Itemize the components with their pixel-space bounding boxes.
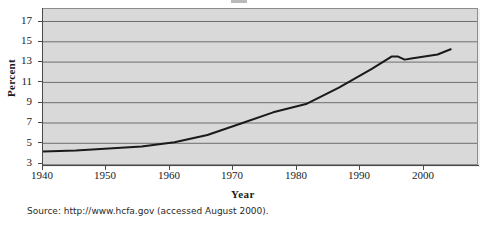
plot-area (42, 8, 478, 165)
y-tick-mark-13 (38, 61, 43, 62)
y-tick-mark-5 (38, 142, 43, 143)
x-tick-label-1990: 1990 (334, 170, 384, 181)
x-axis-line (42, 165, 479, 166)
x-axis-title: Year (0, 188, 486, 200)
y-tick-mark-15 (38, 41, 43, 42)
y-tick-label-3: 3 (10, 157, 32, 168)
y-tick-mark-9 (38, 102, 43, 103)
x-tick-label-2000: 2000 (398, 170, 448, 181)
y-axis-title: Percent (5, 48, 17, 108)
grid-and-series-layer (43, 9, 477, 164)
y-tick-label-17: 17 (10, 15, 32, 26)
x-tick-label-1950: 1950 (80, 170, 130, 181)
y-tick-label-15: 15 (10, 35, 32, 46)
y-tick-label-5: 5 (10, 137, 32, 148)
series-line-health-spending (43, 49, 451, 151)
clipped-title-remnant (231, 0, 247, 3)
gridlines (43, 22, 477, 144)
y-tick-mark-3 (38, 163, 43, 164)
y-tick-mark-7 (38, 122, 43, 123)
x-tick-label-1970: 1970 (207, 170, 257, 181)
y-tick-mark-11 (38, 81, 43, 82)
y-tick-mark-17 (38, 21, 43, 22)
x-tick-label-1960: 1960 (144, 170, 194, 181)
x-tick-label-1940: 1940 (17, 170, 67, 181)
source-note: Source: http://www.hcfa.gov (accessed Au… (27, 206, 269, 216)
y-tick-label-7: 7 (10, 116, 32, 127)
x-tick-label-1980: 1980 (271, 170, 321, 181)
chart-figure: 17 15 13 11 9 7 5 3 1940 1950 1960 1970 … (0, 0, 486, 227)
